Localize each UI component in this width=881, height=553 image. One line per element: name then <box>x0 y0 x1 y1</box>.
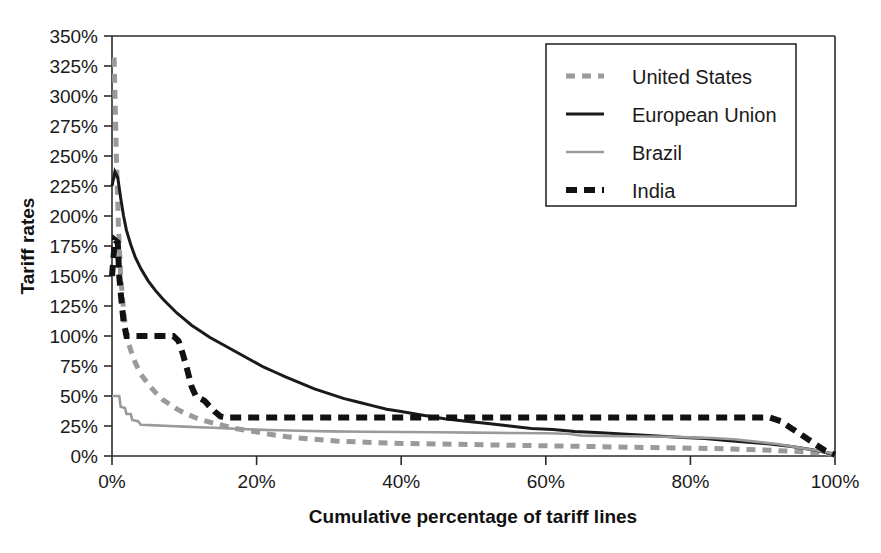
y-tick-label: 25% <box>60 416 98 437</box>
x-tick-label: 60% <box>527 471 565 492</box>
legend-label-brazil: Brazil <box>632 142 682 164</box>
x-tick-label: 20% <box>238 471 276 492</box>
y-tick-label: 225% <box>49 176 98 197</box>
y-tick-label: 50% <box>60 386 98 407</box>
tariff-rates-chart-figure: 350%325%300%275%250%225%200%175%150%125%… <box>0 0 881 553</box>
y-axis-title: Tariff rates <box>17 198 38 295</box>
y-axis-ticks: 350%325%300%275%250%225%200%175%150%125%… <box>49 26 112 467</box>
x-tick-label: 80% <box>671 471 709 492</box>
y-tick-label: 200% <box>49 206 98 227</box>
legend-label-united-states: United States <box>632 66 752 88</box>
x-tick-label: 100% <box>811 471 860 492</box>
series-line-european-union <box>112 172 835 455</box>
y-tick-label: 325% <box>49 56 98 77</box>
y-tick-label: 175% <box>49 236 98 257</box>
y-tick-label: 0% <box>71 446 99 467</box>
y-tick-label: 100% <box>49 326 98 347</box>
y-tick-label: 350% <box>49 26 98 47</box>
chart-canvas: 350%325%300%275%250%225%200%175%150%125%… <box>0 0 881 553</box>
y-tick-label: 250% <box>49 146 98 167</box>
x-tick-label: 0% <box>98 471 126 492</box>
x-axis-ticks: 0%20%40%60%80%100% <box>98 456 859 492</box>
legend: United StatesEuropean UnionBrazilIndia <box>546 44 796 206</box>
y-tick-label: 125% <box>49 296 98 317</box>
x-axis-title: Cumulative percentage of tariff lines <box>309 506 637 527</box>
legend-label-india: India <box>632 180 676 202</box>
legend-label-european-union: European Union <box>632 104 777 126</box>
y-tick-label: 275% <box>49 116 98 137</box>
x-tick-label: 40% <box>382 471 420 492</box>
y-tick-label: 150% <box>49 266 98 287</box>
y-tick-label: 75% <box>60 356 98 377</box>
y-tick-label: 300% <box>49 86 98 107</box>
